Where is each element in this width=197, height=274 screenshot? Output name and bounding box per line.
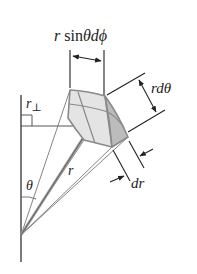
phi-dimension (70, 50, 104, 95)
right-angle-marker (21, 115, 32, 126)
spherical-volume-diagram: r sinθdϕ rdθ dr r θ r⊥ (0, 0, 197, 274)
label-theta: θ (26, 178, 33, 193)
label-r: r (68, 163, 74, 178)
label-r-perp: r⊥ (26, 96, 42, 113)
label-r-sin-theta-dphi: r sinθdϕ (54, 27, 107, 45)
label-r-dtheta: rdθ (151, 80, 172, 96)
volume-element (68, 90, 128, 147)
label-dr: dr (131, 175, 145, 191)
